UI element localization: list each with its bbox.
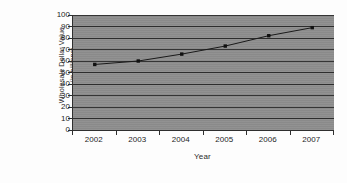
line-chart-figure: Wholesale Dollar Value (in billions) 010… [0, 0, 347, 183]
x-axis-tick-labels: 200220032004200520062007 [72, 135, 333, 149]
data-series [73, 15, 334, 130]
data-point-marker [224, 44, 227, 47]
x-axis-title: Year [72, 152, 333, 161]
y-axis-tick-labels: 0102030405060708090100 [44, 15, 70, 130]
data-point-marker [311, 26, 314, 29]
x-axis-tick-label: 2002 [85, 135, 103, 144]
x-axis-tick-label: 2007 [302, 135, 320, 144]
plot-area [72, 15, 334, 131]
x-axis-tick-label: 2004 [172, 135, 190, 144]
x-axis-tick-label: 2005 [215, 135, 233, 144]
data-point-marker [93, 63, 96, 66]
x-axis-tick-mark [333, 131, 334, 135]
x-axis-tick-label: 2003 [128, 135, 146, 144]
x-axis-tick-label: 2006 [259, 135, 277, 144]
series-line [95, 28, 313, 65]
data-point-marker [267, 34, 270, 37]
data-point-marker [137, 59, 140, 62]
data-point-marker [180, 52, 183, 55]
